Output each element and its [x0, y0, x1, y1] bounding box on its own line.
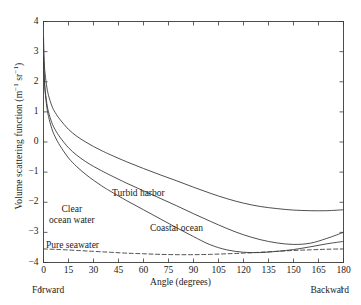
- series-label: Clearocean water: [49, 204, 95, 226]
- forward-note: Forward: [32, 285, 64, 295]
- series-label: Pure seawater: [46, 240, 99, 251]
- chart-figure: Volume scattering function (m−1 sr−1) An…: [0, 0, 361, 305]
- x-tick-label: 180: [329, 266, 359, 276]
- y-tick-label: 0: [13, 137, 39, 147]
- y-tick-label: −1: [13, 167, 39, 177]
- series-label: Turbid harbor: [112, 188, 165, 199]
- y-axis-label-exp2: −1: [12, 66, 20, 74]
- y-tick-label: 1: [13, 107, 39, 117]
- y-tick-label: 3: [13, 47, 39, 57]
- y-tick-label: 4: [13, 17, 39, 27]
- y-axis-label-tail: ): [14, 63, 24, 66]
- backward-note: Backward: [310, 285, 349, 295]
- series-label: Coastal ocean: [150, 223, 203, 234]
- y-tick-label: −2: [13, 197, 39, 207]
- plot-canvas: [0, 0, 361, 305]
- y-tick-label: −3: [13, 227, 39, 237]
- series-line: [44, 37, 344, 211]
- y-tick-label: 2: [13, 77, 39, 87]
